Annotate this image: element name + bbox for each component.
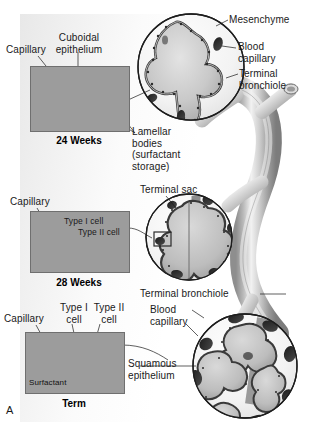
label-mesenchyme: Mesenchyme: [229, 14, 289, 26]
lung-development-figure: Capillary Cuboidal epithelium Lamellar b…: [0, 0, 313, 442]
label-capillary-term: Capillary: [4, 313, 44, 325]
label-squamous-epithelium: Squamous epithelium: [128, 358, 177, 381]
label-capillary-24weeks: Capillary: [6, 44, 46, 56]
label-terminal-bronchiole-top: Terminal bronchiole: [239, 68, 286, 91]
label-cuboidal-epithelium: Cuboidal epithelium: [52, 32, 106, 55]
alveolar-stage-circle: [189, 311, 297, 428]
caption-28-weeks: 28 Weeks: [30, 277, 128, 288]
inset-24-weeks-box: [30, 66, 130, 132]
label-lamellar-bodies: Lamellar bodies (surfactant storage): [132, 126, 190, 172]
label-blood-capillary-bottom: Blood capillary: [150, 304, 188, 327]
label-terminal-sac: Terminal sac: [140, 184, 197, 196]
label-type-i-cell-28weeks: Type I cell: [64, 216, 103, 228]
label-type-ii-cell-term: Type II cell: [90, 302, 128, 325]
label-blood-capillary-top: Blood capillary: [238, 41, 276, 64]
label-surfactant-term: Surfactant: [29, 377, 66, 389]
label-type-ii-cell-28weeks: Type II cell: [78, 227, 120, 239]
figure-letter-label: A: [6, 404, 13, 416]
caption-24-weeks: 24 Weeks: [30, 135, 128, 146]
label-type-i-cell-term: Type I cell: [56, 302, 92, 325]
caption-term: Term: [25, 398, 123, 409]
label-capillary-28weeks: Capillary: [10, 196, 50, 208]
label-terminal-bronchiole-bottom: Terminal bronchiole: [140, 288, 229, 300]
